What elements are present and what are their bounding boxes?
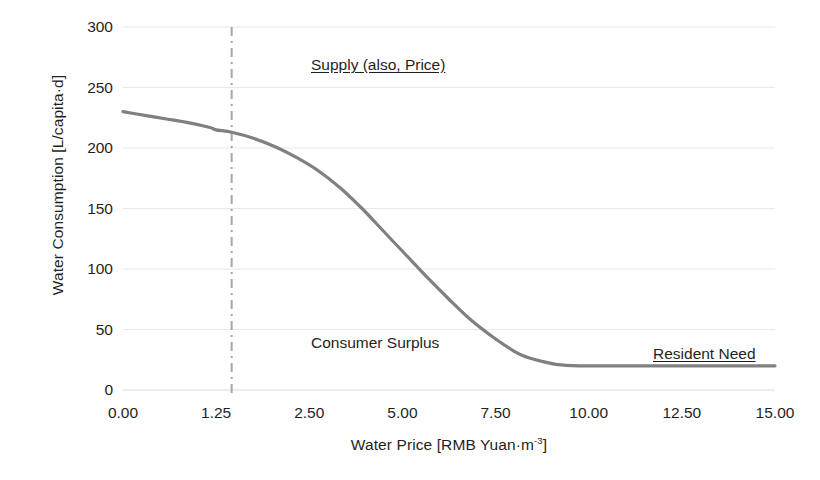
annotation-consumer-surplus: Consumer Surplus: [311, 334, 439, 352]
x-tick-label: 0.00: [108, 404, 138, 422]
x-axis-title-tail: ]: [543, 436, 547, 453]
y-axis-title: Water Consumption [L/capita·d]: [49, 0, 67, 375]
x-tick-label: 12.50: [662, 404, 701, 422]
x-tick-label: 5.00: [387, 404, 417, 422]
annotation-supply-price: Supply (also, Price): [311, 56, 445, 74]
annotation-resident-need: Resident Need: [653, 345, 756, 363]
x-tick-label: 1.25: [201, 404, 231, 422]
x-axis-title: Water Price [RMB Yuan·m-3]: [123, 436, 775, 454]
x-tick-label: 10.00: [569, 404, 608, 422]
x-axis-title-superscript: -3: [534, 435, 543, 446]
x-tick-label: 15.00: [756, 404, 795, 422]
x-tick-label: 7.50: [480, 404, 510, 422]
water-demand-chart: 050100150200250300 0.001.252.505.007.501…: [0, 0, 820, 480]
x-tick-label: 2.50: [294, 404, 324, 422]
x-axis-title-base: Water Price [RMB Yuan·m: [351, 436, 534, 453]
